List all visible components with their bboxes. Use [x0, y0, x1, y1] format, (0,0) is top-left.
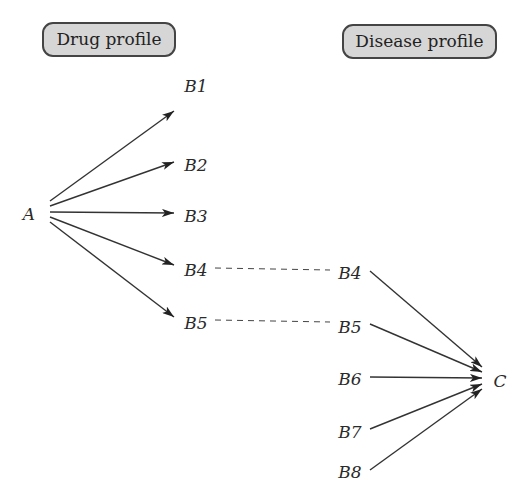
arrow-a-b1 — [50, 111, 174, 201]
node-disease-b4: B4 — [338, 263, 361, 283]
arrow-a-b4 — [50, 217, 174, 265]
node-drug-b1: B1 — [184, 76, 207, 96]
arrow-b6-c — [370, 377, 482, 378]
node-disease-b8: B8 — [338, 462, 361, 482]
node-disease-b7: B7 — [338, 422, 361, 442]
node-drug-b4: B4 — [184, 260, 207, 280]
dashed-link-b5 — [215, 320, 330, 322]
arrow-a-b2 — [50, 162, 174, 206]
node-a: A — [23, 204, 35, 224]
arrow-b5-c — [370, 324, 482, 372]
node-disease-b5: B5 — [338, 317, 361, 337]
node-disease-b6: B6 — [338, 369, 361, 389]
node-drug-b5: B5 — [184, 313, 207, 333]
arrow-b4-c — [370, 271, 482, 367]
edges-layer — [0, 0, 523, 496]
arrow-a-b5 — [50, 222, 174, 317]
arrow-b8-c — [370, 389, 482, 470]
node-c: C — [493, 371, 506, 391]
node-drug-b2: B2 — [184, 155, 207, 175]
arrow-b7-c — [370, 384, 482, 429]
dashed-link-b4 — [215, 268, 330, 270]
node-drug-b3: B3 — [184, 206, 207, 226]
arrow-a-b3 — [50, 212, 174, 213]
